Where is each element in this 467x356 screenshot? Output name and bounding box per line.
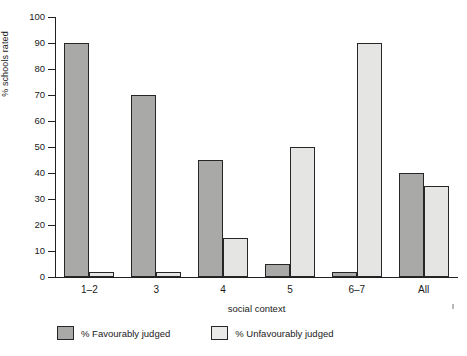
y-tick-label: 70	[19, 90, 45, 100]
y-tick-mark	[48, 17, 55, 18]
y-tick-mark	[48, 251, 55, 252]
y-axis-label: % schools rated	[0, 4, 10, 124]
bar-group	[64, 17, 114, 277]
bar-favourably-judged	[332, 272, 357, 277]
y-tick-label: 10	[19, 246, 45, 256]
y-tick-mark	[48, 147, 55, 148]
bar-unfavourably-judged	[290, 147, 315, 277]
x-axis-line	[55, 277, 458, 278]
x-tick-label: 3	[123, 284, 190, 295]
y-tick-mark	[48, 199, 55, 200]
y-tick-mark	[48, 121, 55, 122]
bar-group	[399, 17, 449, 277]
bar-unfavourably-judged	[424, 186, 449, 277]
bar-group	[198, 17, 248, 277]
legend-item-unfavourably-judged: % Unfavourably judged	[211, 326, 333, 340]
y-tick-label: 100	[19, 12, 45, 22]
legend-label-unfavourably-judged: % Unfavourably judged	[235, 328, 333, 339]
y-tick-mark	[48, 225, 55, 226]
y-tick-label: 60	[19, 116, 45, 126]
plot-area	[56, 17, 457, 277]
legend-label-favourably-judged: % Favourably judged	[81, 328, 170, 339]
bar-chart-figure: % schools rated 0102030405060708090100 1…	[0, 0, 467, 356]
bar-group	[131, 17, 181, 277]
y-tick-mark	[48, 43, 55, 44]
bar-favourably-judged	[198, 160, 223, 277]
legend-item-favourably-judged: % Favourably judged	[57, 326, 170, 340]
y-tick-mark	[48, 173, 55, 174]
y-tick-mark	[48, 95, 55, 96]
y-tick-mark	[48, 277, 55, 278]
x-axis-label: social context	[56, 303, 457, 314]
y-tick-label: 80	[19, 64, 45, 74]
legend-swatch-unfavourably-judged	[211, 326, 228, 340]
legend-swatch-favourably-judged	[57, 326, 74, 340]
y-tick-label: 0	[19, 272, 45, 282]
chart-legend: % Favourably judged % Unfavourably judge…	[57, 326, 333, 340]
bar-unfavourably-judged	[156, 272, 181, 277]
y-tick-label: 40	[19, 168, 45, 178]
x-tick-label: 1–2	[56, 284, 123, 295]
x-tick-label: 6–7	[323, 284, 390, 295]
x-tick-label: 4	[190, 284, 257, 295]
page-speck	[452, 304, 454, 309]
bar-favourably-judged	[64, 43, 89, 277]
x-tick-label: 5	[257, 284, 324, 295]
bar-unfavourably-judged	[89, 272, 114, 277]
bar-unfavourably-judged	[357, 43, 382, 277]
bar-favourably-judged	[399, 173, 424, 277]
y-tick-mark	[48, 69, 55, 70]
y-tick-label: 90	[19, 38, 45, 48]
y-tick-label: 20	[19, 220, 45, 230]
bar-favourably-judged	[131, 95, 156, 277]
bar-group	[265, 17, 315, 277]
bar-group	[332, 17, 382, 277]
bar-unfavourably-judged	[223, 238, 248, 277]
x-tick-label: All	[390, 284, 457, 295]
y-tick-label: 30	[19, 194, 45, 204]
bar-favourably-judged	[265, 264, 290, 277]
y-tick-label: 50	[19, 142, 45, 152]
